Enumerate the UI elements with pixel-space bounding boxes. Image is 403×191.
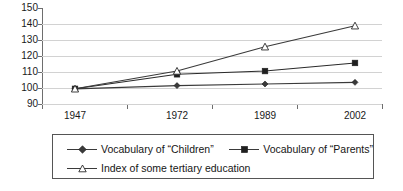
- y-axis-tick-label: 100: [4, 83, 38, 93]
- legend-item-children[interactable]: Vocabulary of “Children”: [67, 144, 229, 155]
- x-axis-tick-label: 1972: [152, 110, 202, 121]
- data-point: [262, 81, 268, 87]
- x-axis-tick: [297, 105, 298, 109]
- x-axis-tick-label: 1989: [240, 110, 290, 121]
- plot-area: [42, 8, 382, 105]
- data-point: [352, 79, 358, 85]
- legend-item-tertiary-education[interactable]: Index of some tertiary education: [67, 163, 248, 174]
- data-point: [262, 68, 268, 74]
- legend-row: Vocabulary of “Children” Vocabulary of “…: [53, 140, 373, 159]
- y-axis-labels: 150 140 130 120 110 100 90: [0, 0, 38, 113]
- data-point: [174, 83, 180, 89]
- y-axis-tick-label: 110: [4, 67, 38, 77]
- legend-item-parents[interactable]: Vocabulary of “Parents”: [229, 144, 373, 155]
- x-axis-tick-label: 2002: [330, 110, 380, 121]
- y-axis-tick-label: 130: [4, 35, 38, 45]
- data-point: [351, 22, 358, 29]
- diamond-marker-icon: [67, 144, 97, 155]
- x-axis-tick: [127, 105, 128, 109]
- legend-label: Vocabulary of “Parents”: [263, 144, 373, 155]
- legend-row: Index of some tertiary education: [53, 159, 373, 178]
- y-axis-tick-label: 150: [4, 3, 38, 13]
- data-point: [352, 60, 358, 66]
- x-axis-tick: [382, 105, 383, 109]
- legend-label: Index of some tertiary education: [101, 163, 250, 174]
- y-axis-tick-label: 90: [4, 99, 38, 109]
- square-marker-icon: [229, 144, 259, 155]
- x-axis-tick: [42, 105, 43, 109]
- series-line: [75, 26, 355, 89]
- y-axis-tick-label: 120: [4, 51, 38, 61]
- x-axis-tick-label: 1947: [50, 110, 100, 121]
- legend-label: Vocabulary of “Children”: [101, 144, 214, 155]
- y-axis-tick-label: 140: [4, 19, 38, 29]
- series-plot: [42, 8, 382, 105]
- chart-legend: Vocabulary of “Children” Vocabulary of “…: [52, 134, 374, 179]
- line-chart: 150 140 130 120 110 100 90 1947 1972 198…: [0, 0, 403, 191]
- triangle-marker-icon: [67, 163, 97, 174]
- x-axis-tick: [212, 105, 213, 109]
